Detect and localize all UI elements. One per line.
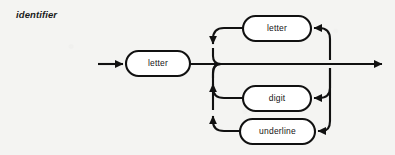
underline-loop-feed-path bbox=[318, 68, 330, 131]
letter-loop-return-path bbox=[213, 28, 243, 44]
digit-loop-feed-path bbox=[314, 68, 330, 98]
digit-loop-return-path bbox=[213, 84, 243, 98]
railroad-track-graphic bbox=[0, 0, 395, 155]
letter-loop-feed-path bbox=[314, 28, 330, 60]
node-label-first-letter: letter bbox=[126, 58, 190, 68]
node-label-loop-letter: letter bbox=[243, 23, 311, 33]
syntax-diagram-canvas: identifier bbox=[0, 0, 395, 155]
underline-loop-return-tail bbox=[213, 64, 221, 110]
letter-loop-return-tail bbox=[213, 48, 221, 64]
underline-loop-return-path bbox=[213, 116, 240, 131]
node-label-loop-underline: underline bbox=[240, 126, 315, 136]
node-label-loop-digit: digit bbox=[243, 93, 311, 103]
